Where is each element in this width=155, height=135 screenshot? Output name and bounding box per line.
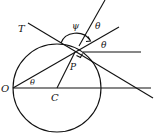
psi-arrowhead [86, 37, 91, 42]
label-C: C [51, 92, 59, 103]
label-theta-top: θ [95, 21, 101, 31]
geometry-diagram: T ψ θ θ P O θ C [0, 0, 155, 135]
label-P: P [69, 62, 77, 72]
label-O: O [1, 83, 9, 94]
tangent-line [28, 23, 153, 98]
label-psi: ψ [72, 21, 80, 31]
label-T: T [18, 23, 26, 34]
label-theta-origin: θ [30, 78, 35, 87]
label-theta-right: θ [101, 40, 107, 50]
